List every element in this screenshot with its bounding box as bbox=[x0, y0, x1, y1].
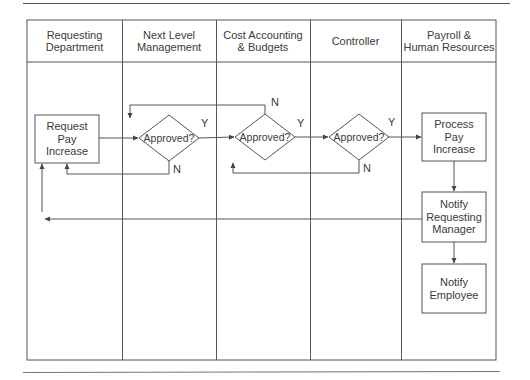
decision1-yes-label: Y bbox=[201, 117, 208, 129]
decision2-yes-label: Y bbox=[297, 117, 304, 129]
decision-text: Approved? bbox=[240, 131, 291, 144]
lane-header-line: & Budgets bbox=[238, 41, 289, 53]
node-text-line: Manager bbox=[432, 223, 475, 236]
notify-employee-label: Notify Employee bbox=[422, 264, 486, 313]
lane-header-payroll-hr: Payroll & Human Resources bbox=[401, 20, 497, 62]
node-text-line: Notify bbox=[440, 276, 468, 289]
lane-header-requesting-department: Requesting Department bbox=[27, 20, 122, 62]
process-pay-increase-label: Process Pay Increase bbox=[422, 113, 486, 161]
decision-1-label: Approved? bbox=[139, 131, 199, 145]
lane-header-line: Requesting bbox=[47, 29, 103, 41]
arrow-decision3-no-to-decision2 bbox=[233, 160, 359, 173]
node-text-line: Pay bbox=[58, 133, 77, 146]
node-text-line: Employee bbox=[430, 289, 479, 302]
notify-requesting-manager-label: Notify Requesting Manager bbox=[422, 192, 486, 242]
node-text-line: Request bbox=[47, 120, 88, 133]
decision3-no-label: N bbox=[363, 162, 371, 174]
lane-header-line: Cost Accounting bbox=[223, 29, 303, 41]
node-text-line: Notify bbox=[440, 198, 468, 211]
node-text-line: Pay bbox=[445, 131, 464, 144]
decision-2-label: Approved? bbox=[235, 130, 295, 144]
lane-header-controller: Controller bbox=[310, 20, 401, 62]
arrow-decision2-no-to-decision1 bbox=[130, 105, 265, 118]
lane-header-line: Department bbox=[46, 41, 103, 53]
decision-text: Approved? bbox=[334, 131, 385, 144]
node-text-line: Requesting bbox=[426, 211, 482, 224]
lane-header-cost-accounting: Cost Accounting & Budgets bbox=[216, 20, 310, 62]
lane-header-line: Controller bbox=[332, 35, 380, 47]
decision1-no-label: N bbox=[173, 163, 181, 175]
node-text-line: Process bbox=[434, 118, 474, 131]
bottom-rule bbox=[23, 372, 500, 373]
request-pay-increase-label: Request Pay Increase bbox=[35, 115, 99, 163]
lane-header-next-level-management: Next Level Management bbox=[122, 20, 216, 62]
decision-3-label: Approved? bbox=[329, 130, 389, 144]
decision3-yes-label: Y bbox=[388, 116, 395, 128]
lane-header-line: Management bbox=[137, 41, 201, 53]
lane-header-line: Next Level bbox=[143, 29, 195, 41]
arrow-decision1-to-decision2 bbox=[199, 137, 234, 138]
lane-header-line: Human Resources bbox=[403, 41, 494, 53]
node-text-line: Increase bbox=[46, 145, 88, 158]
node-text-line: Increase bbox=[433, 143, 475, 156]
decision2-no-label: N bbox=[271, 96, 279, 108]
decision-text: Approved? bbox=[144, 132, 195, 145]
lane-header-line: Payroll & bbox=[427, 29, 471, 41]
